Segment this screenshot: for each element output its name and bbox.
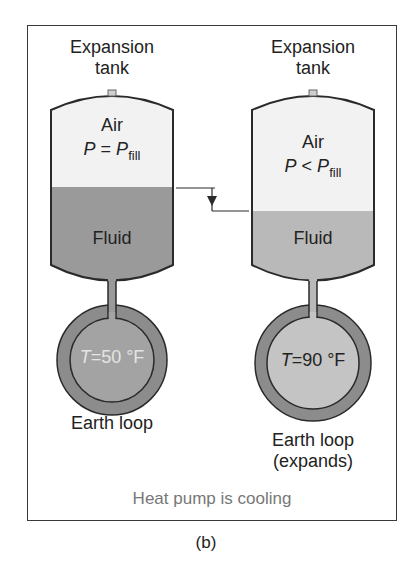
right-pressure-label: P < Pfill xyxy=(253,156,373,183)
left-loop-label: Earth loop xyxy=(42,413,182,434)
left-tank-title-line2: tank xyxy=(52,58,172,79)
left-tank-title-line1: Expansion xyxy=(52,37,172,58)
left-pressure-ref: P xyxy=(116,139,128,159)
right-pressure-sub: fill xyxy=(329,165,341,180)
left-temperature-label: T=50 °F xyxy=(62,347,162,368)
heat-pump-status: Heat pump is cooling xyxy=(27,489,397,509)
right-temperature-label: T=90 °F xyxy=(263,350,363,371)
diagram-graphics xyxy=(0,0,412,565)
right-expansion-tank xyxy=(245,80,380,307)
right-tank-title: Expansion tank xyxy=(253,37,373,79)
right-temp-var: T xyxy=(281,350,292,370)
right-pressure-var: P xyxy=(285,156,297,176)
right-pressure-relation: < xyxy=(297,156,318,176)
left-pressure-var: P xyxy=(84,139,96,159)
left-air-label: Air xyxy=(52,115,172,136)
right-tank-title-line2: tank xyxy=(253,58,373,79)
left-temp-var: T xyxy=(80,347,91,367)
left-pressure-relation: = xyxy=(96,139,117,159)
left-fluid-label: Fluid xyxy=(52,228,172,249)
right-loop-label-line1: Earth loop xyxy=(243,430,383,451)
left-valve-icon xyxy=(108,90,116,96)
level-drop-arrow-icon xyxy=(176,188,249,211)
left-temp-value: =50 °F xyxy=(91,347,145,367)
right-fluid-label: Fluid xyxy=(253,228,373,249)
right-air-label: Air xyxy=(253,132,373,153)
right-temp-value: =90 °F xyxy=(292,350,346,370)
right-loop-label-line2: (expands) xyxy=(243,451,383,472)
figure-caption: (b) xyxy=(0,533,412,553)
right-tank-title-line1: Expansion xyxy=(253,37,373,58)
right-pressure-ref: P xyxy=(317,156,329,176)
right-valve-icon xyxy=(309,90,317,96)
left-pressure-sub: fill xyxy=(128,148,140,163)
right-loop-label: Earth loop (expands) xyxy=(243,430,383,472)
left-tank-title: Expansion tank xyxy=(52,37,172,79)
left-pressure-label: P = Pfill xyxy=(52,139,172,166)
